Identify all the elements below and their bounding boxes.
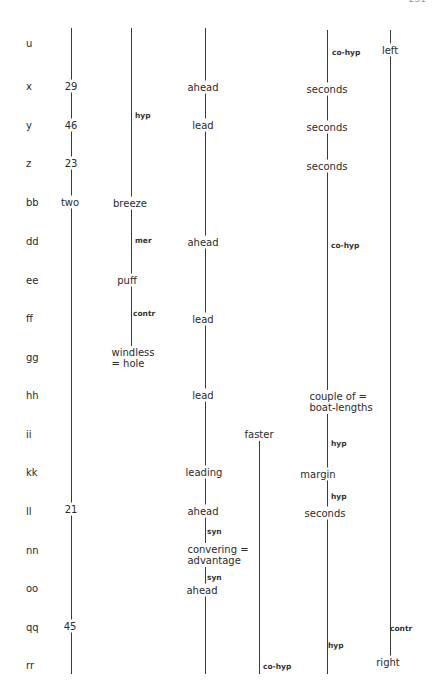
- col2-term-puff: puff: [117, 274, 137, 287]
- row-label-y: y: [26, 120, 32, 131]
- row-label-u: u: [26, 38, 32, 49]
- row-label-ff: ff: [26, 313, 33, 324]
- row-label-kk: kk: [26, 467, 38, 478]
- faster-term: faster: [244, 428, 273, 441]
- col3-term-ff-lead: lead: [192, 313, 213, 326]
- row-label-z: z: [26, 158, 31, 169]
- col3-term-ll-ahead: ahead: [187, 505, 218, 518]
- row-label-ll: ll: [26, 506, 32, 517]
- col4-relation-hyp3: hyp: [328, 641, 344, 650]
- col4-term-z-seconds: seconds: [307, 160, 348, 173]
- faster-relation-cohyp: co-hyp: [263, 662, 291, 671]
- col2-line: [131, 28, 132, 346]
- col1-term-qq: 45: [64, 620, 77, 633]
- col3-term-dd-ahead: ahead: [187, 236, 218, 249]
- col1-term-x: 29: [65, 80, 78, 93]
- col1-term-z: 23: [65, 157, 78, 170]
- col5-relation-contr: contr: [390, 624, 412, 633]
- row-label-qq: qq: [26, 622, 39, 633]
- col4-relation-hyp1: hyp: [331, 439, 347, 448]
- col3-term-y-lead: lead: [192, 119, 213, 132]
- col4-term-hh-couple: couple of = boat-lengths: [309, 390, 372, 414]
- col2-relation-mer: mer: [135, 236, 152, 245]
- row-label-ii: ii: [26, 429, 32, 440]
- col4-term-x-seconds: seconds: [307, 83, 348, 96]
- col3-term-oo-ahead: ahead: [186, 584, 217, 597]
- col5-term-left: left: [382, 44, 398, 57]
- col4-relation-cohyp1: co-hyp: [332, 48, 360, 57]
- col4-relation-cohyp2: co-hyp: [331, 241, 359, 250]
- col4-term-y-seconds: seconds: [307, 121, 348, 134]
- row-label-nn: nn: [26, 545, 39, 556]
- col3-term-x-ahead: ahead: [187, 81, 218, 94]
- col4-term-ll-seconds: seconds: [305, 507, 346, 520]
- col3-term-hh-lead: lead: [192, 389, 213, 402]
- col1-term-ll: 21: [65, 503, 78, 516]
- col4-term-kk-margin: margin: [300, 468, 335, 481]
- row-label-rr: rr: [26, 660, 34, 671]
- col2-relation-contr: contr: [133, 309, 155, 318]
- col1-term-y: 46: [65, 119, 78, 132]
- col3-relation-syn1: syn: [207, 527, 222, 536]
- row-label-oo: oo: [26, 583, 38, 594]
- col2-term-windless: windless = hole: [112, 346, 155, 370]
- row-label-dd: dd: [26, 236, 39, 247]
- col5-line: [390, 30, 391, 658]
- row-label-gg: gg: [26, 352, 39, 363]
- row-label-hh: hh: [26, 390, 39, 401]
- col1-term-bb: two: [61, 196, 79, 209]
- page-number: 231: [409, 0, 426, 4]
- row-label-bb: bb: [26, 197, 39, 208]
- faster-line: [259, 441, 260, 674]
- col5-term-right: right: [376, 656, 400, 669]
- col2-term-breeze: breeze: [113, 197, 147, 210]
- row-label-ee: ee: [26, 275, 38, 286]
- col3-relation-syn2: syn: [207, 573, 222, 582]
- row-label-x: x: [26, 81, 32, 92]
- semantic-relations-diagram: 231 u x y z bb dd ee ff gg hh ii kk ll n…: [0, 0, 432, 698]
- col2-relation-hyp: hyp: [135, 111, 151, 120]
- col4-relation-hyp2: hyp: [331, 492, 347, 501]
- col3-term-nn-convering: convering = advantage: [187, 543, 248, 567]
- col3-term-kk-leading: leading: [186, 466, 223, 479]
